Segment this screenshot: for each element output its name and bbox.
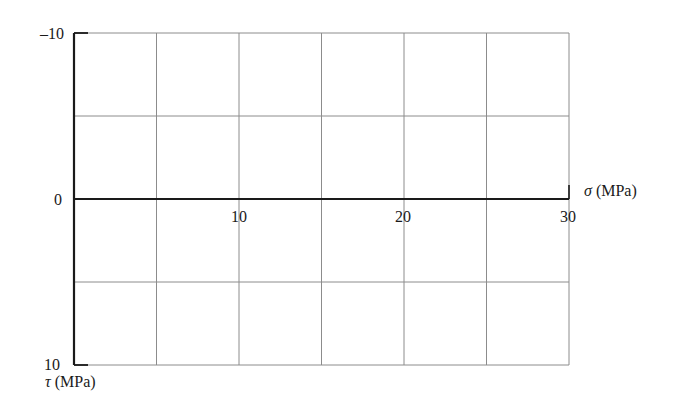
x-tick-label-30: 30 [560, 209, 576, 225]
sigma-symbol: σ [584, 182, 592, 199]
chart-canvas [0, 0, 686, 420]
x-axis-label: σ (MPa) [584, 183, 637, 199]
y-tick-label-bottom: 10 [44, 357, 60, 373]
y-tick-label-zero: 0 [54, 192, 62, 208]
x-tick-label-10: 10 [231, 209, 247, 225]
mohr-circle-grid-chart: –10 0 10 τ (MPa) 10 20 30 σ (MPa) [0, 0, 686, 420]
y-axis-label: τ (MPa) [45, 374, 96, 390]
tau-symbol: τ [45, 373, 51, 390]
y-tick-label-top: –10 [40, 26, 64, 42]
x-tick-label-20: 20 [395, 209, 411, 225]
